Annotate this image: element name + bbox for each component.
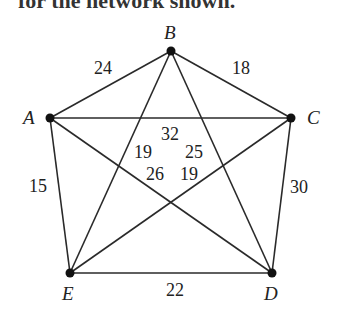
weight-a-c: 32 [161,124,179,144]
weight-b-d: 25 [185,142,203,162]
edge-c-e [70,118,291,273]
weight-d-e: 22 [166,280,184,300]
vertex-e [66,269,75,278]
edge-b-e [70,51,171,273]
edge-b-c [171,51,291,118]
weight-a-b: 24 [94,58,112,78]
weight-c-e: 19 [180,164,198,184]
weight-a-d: 26 [146,164,164,184]
vertex-d [268,269,277,278]
vertex-label-e: E [61,283,74,304]
edge-b-d [171,51,272,273]
weight-b-e: 19 [134,142,152,162]
vertex-label-c: C [307,107,320,128]
vertex-b [167,47,176,56]
vertex-label-a: A [21,107,35,128]
network-graph: A B C D E 24 18 30 22 15 32 19 25 26 19 [0,0,339,311]
vertex-a [46,114,55,123]
edge-e-a [50,118,70,273]
vertex-label-d: D [263,283,278,304]
vertex-label-b: B [164,22,176,43]
weight-b-c: 18 [232,58,250,78]
weight-e-a: 15 [29,176,47,196]
weight-c-d: 30 [290,177,308,197]
edge-c-d [272,118,291,273]
vertex-c [287,114,296,123]
